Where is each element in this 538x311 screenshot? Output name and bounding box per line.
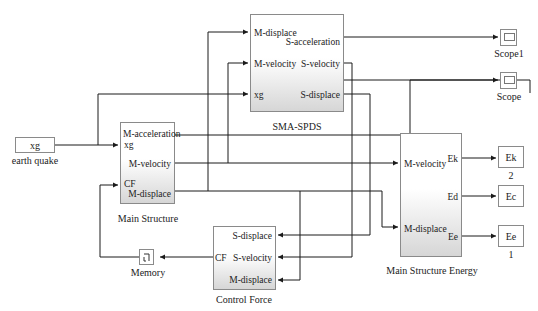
scope1-label: Scope1 bbox=[490, 48, 528, 59]
sma-spds-block[interactable]: M-displace S-acceleration M-velocity S-v… bbox=[250, 14, 344, 112]
main-structure-block[interactable]: M-acceleration xg M-velocity CF M-displa… bbox=[120, 122, 175, 204]
sma-output-s-velocity: S-velocity bbox=[301, 59, 340, 69]
outport-ec-text: Ec bbox=[499, 191, 523, 202]
outport-ek[interactable]: Ek bbox=[498, 146, 524, 168]
earthquake-block-text: xg bbox=[16, 140, 54, 151]
energy-block[interactable]: M-velocity Ek Ed M-displace Ee bbox=[400, 133, 462, 257]
sma-input-m-velocity: M-velocity bbox=[254, 59, 296, 69]
main-structure-label: Main Structure bbox=[116, 213, 180, 224]
main-structure-input-cf: CF bbox=[124, 179, 136, 189]
sma-output-s-acceleration: S-acceleration bbox=[286, 37, 340, 47]
main-structure-input-xg: xg bbox=[124, 140, 134, 150]
sma-output-s-displace: S-displace bbox=[300, 90, 340, 100]
outport-ee-text: Ee bbox=[499, 231, 523, 242]
memory-block[interactable] bbox=[139, 249, 154, 265]
control-force-label: Control Force bbox=[204, 294, 284, 305]
energy-input-m-velocity: M-velocity bbox=[404, 159, 446, 169]
sma-input-xg: xg bbox=[254, 90, 264, 100]
earthquake-block[interactable]: xg bbox=[15, 137, 55, 153]
scope-icon bbox=[504, 76, 515, 84]
scope1-icon bbox=[504, 33, 515, 41]
main-structure-output-velocity: M-velocity bbox=[129, 159, 171, 169]
control-input-s-velocity: S-velocity bbox=[233, 253, 272, 263]
control-output-cf: CF bbox=[215, 253, 227, 263]
outport-ee[interactable]: Ee bbox=[498, 225, 524, 247]
diagram-canvas: xg earth quake M-acceleration xg M-veloc… bbox=[0, 0, 538, 311]
control-force-block[interactable]: S-displace CF S-velocity M-displace bbox=[213, 226, 276, 290]
outport-ec[interactable]: Ec bbox=[498, 185, 524, 207]
energy-output-ee: Ee bbox=[448, 232, 458, 242]
energy-input-m-displace: M-displace bbox=[404, 224, 447, 234]
earthquake-label: earth quake bbox=[6, 155, 64, 166]
memory-icon bbox=[143, 253, 151, 262]
memory-label: Memory bbox=[126, 267, 170, 278]
outport-ek-text: Ek bbox=[499, 152, 523, 163]
control-input-s-displace: S-displace bbox=[232, 231, 272, 241]
scope-label: Scope bbox=[490, 91, 528, 102]
main-structure-output-acceleration: M-acceleration bbox=[123, 129, 181, 139]
energy-output-ek: Ek bbox=[447, 154, 458, 164]
energy-label: Main Structure Energy bbox=[384, 265, 480, 276]
scope-block[interactable] bbox=[500, 72, 517, 89]
outport-ek-number: 2 bbox=[498, 170, 524, 181]
energy-output-ed: Ed bbox=[447, 192, 458, 202]
scope1-block[interactable] bbox=[500, 29, 517, 46]
outport-ee-number: 1 bbox=[498, 249, 524, 260]
sma-spds-label: SMA-SPDS bbox=[262, 121, 332, 132]
control-input-m-displace: M-displace bbox=[229, 275, 272, 285]
main-structure-output-displace: M-displace bbox=[128, 189, 171, 199]
